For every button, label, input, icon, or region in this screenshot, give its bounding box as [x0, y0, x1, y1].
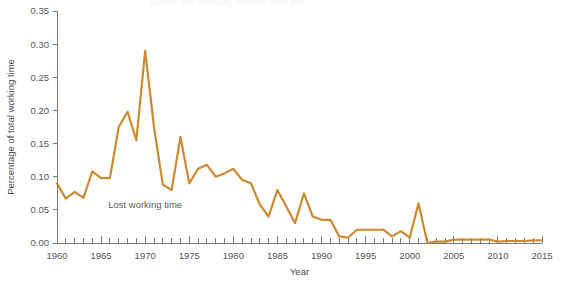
x-tick-label: 1990	[311, 250, 332, 261]
y-tick-label: 0.10	[31, 171, 50, 182]
x-tick-label: 2015	[531, 250, 552, 261]
cropped-header-text: Strikes and lockouts, working days lost	[150, 0, 305, 7]
x-tick-label: 1965	[91, 250, 112, 261]
chart-container: Strikes and lockouts, working days lost …	[0, 0, 561, 285]
chart-annotations: Lost working time	[108, 199, 182, 210]
y-tick-label: 0.15	[31, 138, 50, 149]
x-tick-label: 1995	[355, 250, 376, 261]
y-tick-label: 0.00	[31, 237, 50, 248]
x-tick-label: 1960	[46, 250, 67, 261]
y-tick-label: 0.30	[31, 39, 50, 50]
line-chart: Strikes and lockouts, working days lost …	[0, 0, 561, 285]
y-axis-title: Percentage of total working time	[5, 59, 16, 195]
chart-annotation-label: Lost working time	[108, 199, 182, 210]
x-axis-title: Year	[290, 266, 309, 277]
x-tick-label: 2005	[443, 250, 464, 261]
y-tick-label: 0.05	[31, 204, 50, 215]
chart-background	[0, 0, 561, 285]
y-tick-label: 0.20	[31, 105, 50, 116]
y-tick-label: 0.35	[31, 5, 50, 16]
y-tick-label: 0.25	[31, 72, 50, 83]
x-tick-label: 1970	[135, 250, 156, 261]
x-tick-label: 2010	[487, 250, 508, 261]
x-tick-label: 1985	[267, 250, 288, 261]
x-tick-label: 1975	[179, 250, 200, 261]
x-tick-label: 2000	[399, 250, 420, 261]
x-tick-label: 1980	[223, 250, 244, 261]
